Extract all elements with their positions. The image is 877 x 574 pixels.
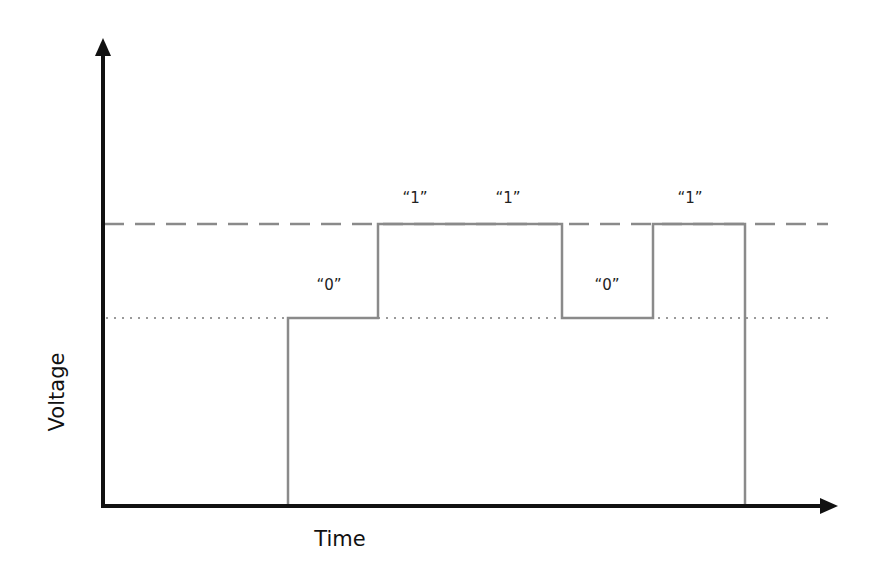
signal-waveform: [288, 224, 745, 506]
signal-diagram: Time Voltage “0” “1” “1” “0” “1”: [0, 0, 877, 574]
bit-label: “0”: [316, 276, 341, 294]
y-axis-title: Voltage: [45, 353, 69, 432]
bit-label: “1”: [402, 189, 427, 207]
x-axis-title: Time: [313, 527, 365, 551]
x-axis-arrow-icon: [820, 498, 838, 514]
bit-label: “0”: [594, 276, 619, 294]
bit-label: “1”: [677, 189, 702, 207]
y-axis-arrow-icon: [95, 38, 111, 56]
bit-label: “1”: [495, 189, 520, 207]
